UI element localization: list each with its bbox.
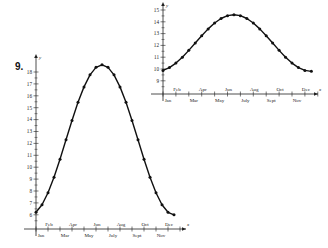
data-point [278, 49, 281, 52]
data-line [163, 15, 311, 72]
month-label: Nov [293, 98, 302, 103]
y-tick-label: 6 [29, 212, 32, 218]
data-point [77, 101, 80, 104]
data-point [173, 213, 176, 216]
chart-canvas: xy9101112131415FebAprJunAugOctDecJanMarM… [0, 0, 328, 248]
data-point [35, 211, 38, 214]
data-point [258, 27, 261, 30]
data-point [168, 66, 171, 69]
data-point [101, 63, 104, 66]
month-label: Jun [94, 222, 101, 227]
data-point [137, 138, 140, 141]
data-point [53, 176, 56, 179]
data-point [65, 138, 68, 141]
data-point [181, 56, 184, 59]
month-label: Jun [225, 87, 232, 92]
x-axis-label: x [186, 222, 190, 227]
data-point [59, 158, 62, 161]
data-point [226, 14, 229, 17]
month-label: Jan [165, 98, 172, 103]
data-point [125, 101, 128, 104]
data-point [83, 85, 86, 88]
data-point [89, 73, 92, 76]
data-point [161, 203, 164, 206]
data-point [239, 14, 242, 17]
data-point [245, 17, 248, 20]
data-point [297, 66, 300, 69]
month-label: July [109, 233, 118, 238]
data-point [119, 85, 122, 88]
y-tick-label: 18 [27, 69, 33, 75]
data-point [162, 69, 165, 72]
month-label: Sept [267, 98, 277, 103]
y-axis-arrow-icon [161, 2, 165, 6]
month-label: Feb [45, 222, 53, 227]
month-label: Mar [61, 233, 70, 238]
data-point [303, 69, 306, 72]
data-point [149, 176, 152, 179]
data-point [200, 34, 203, 37]
y-tick-label: 12 [154, 42, 160, 48]
data-point [194, 42, 197, 45]
y-tick-label: 13 [27, 128, 33, 134]
y-axis-arrow-icon [34, 54, 38, 58]
month-label: Oct [276, 87, 284, 92]
y-tick-label: 11 [154, 54, 159, 60]
y-axis-label: y [165, 3, 169, 8]
y-tick-label: 17 [27, 81, 33, 87]
data-point [131, 119, 134, 122]
data-line [36, 65, 174, 215]
data-point [284, 56, 287, 59]
y-tick-label: 10 [154, 66, 160, 72]
month-label: Feb [173, 87, 181, 92]
data-point [174, 62, 177, 65]
data-point [213, 21, 216, 24]
upper-chart: xy9101112131415FebAprJunAugOctDecJanMarM… [151, 2, 322, 103]
y-tick-label: 8 [29, 188, 32, 194]
data-point [167, 211, 170, 214]
month-label: Nov [157, 233, 166, 238]
month-label: Apr [69, 222, 77, 227]
y-tick-label: 11 [27, 152, 32, 158]
y-tick-label: 9 [156, 78, 159, 84]
x-axis-arrow-icon [182, 227, 186, 231]
lower-chart: xy6789101112131415161718FebAprJunAugOctD… [24, 54, 190, 238]
y-tick-label: 13 [154, 30, 160, 36]
data-point [271, 42, 274, 45]
month-label: May [84, 233, 94, 238]
x-axis-label: x [318, 87, 322, 92]
y-tick-label: 16 [27, 93, 33, 99]
data-point [41, 203, 44, 206]
x-axis-arrow-icon [314, 92, 318, 96]
data-point [207, 27, 210, 30]
data-point [155, 191, 158, 194]
data-point [143, 158, 146, 161]
month-label: Aug [117, 222, 126, 227]
data-point [220, 17, 223, 20]
data-point [71, 119, 74, 122]
month-label: Jan [38, 233, 45, 238]
data-point [47, 191, 50, 194]
month-label: Dec [302, 87, 311, 92]
month-label: Sept [133, 233, 143, 238]
y-tick-label: 10 [27, 164, 33, 170]
data-point [291, 62, 294, 65]
data-point [95, 66, 98, 69]
month-label: Mar [190, 98, 199, 103]
data-point [310, 70, 313, 73]
y-tick-label: 12 [27, 140, 33, 146]
month-label: Dec [165, 222, 174, 227]
month-label: Oct [141, 222, 149, 227]
month-label: July [241, 98, 250, 103]
y-tick-label: 14 [154, 19, 160, 25]
data-point [232, 13, 235, 16]
y-axis-label: y [38, 55, 42, 60]
month-label: Apr [199, 87, 207, 92]
y-tick-label: 7 [29, 200, 32, 206]
data-point [265, 34, 268, 37]
y-tick-label: 15 [27, 105, 33, 111]
data-point [187, 49, 190, 52]
y-tick-label: 9 [29, 176, 32, 182]
month-label: Aug [250, 87, 259, 92]
y-tick-label: 15 [154, 7, 160, 13]
